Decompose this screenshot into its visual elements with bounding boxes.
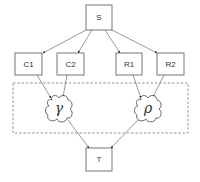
- edge-gamma-t: [68, 120, 89, 148]
- edge-c2-gamma: [63, 75, 67, 97]
- node-s-label: S: [96, 13, 101, 22]
- node-c2-label: C2: [65, 60, 76, 69]
- gamma-label: γ: [55, 100, 64, 116]
- node-r1: R1: [116, 53, 142, 75]
- edge-r1-rho: [133, 75, 141, 98]
- node-s: S: [86, 5, 112, 30]
- node-r2: R2: [157, 53, 184, 75]
- edge-s-r2: [110, 29, 157, 53]
- node-c1-label: C1: [23, 60, 34, 69]
- edge-s-c1: [43, 29, 88, 53]
- diagram-canvas: S C1 C2 R1 R2 γ ρ T: [0, 0, 200, 182]
- edge-r2-rho: [153, 75, 164, 97]
- edge-rho-t: [111, 120, 138, 148]
- edge-c1-gamma: [37, 75, 51, 98]
- node-c1: C1: [15, 53, 42, 75]
- node-r1-label: R1: [124, 60, 135, 69]
- edge-s-r1: [105, 30, 120, 53]
- node-c2: C2: [57, 53, 84, 75]
- node-r2-label: R2: [165, 60, 176, 69]
- node-t: T: [86, 148, 112, 171]
- node-t-label: T: [97, 155, 102, 164]
- dashed-group-box: [13, 83, 188, 133]
- rho-label: ρ: [143, 100, 153, 116]
- cloud-gamma: γ: [45, 96, 72, 122]
- cloud-rho: ρ: [134, 96, 161, 122]
